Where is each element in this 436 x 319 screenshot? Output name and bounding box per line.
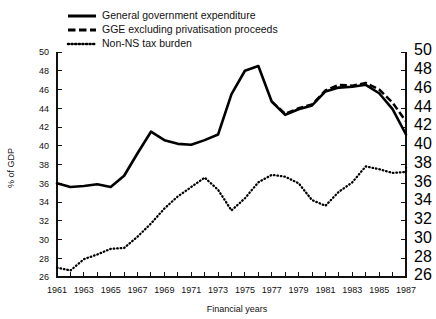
x-tick-label: 1965 (101, 285, 121, 295)
x-tick-label: 1969 (154, 285, 174, 295)
y-axis-tick-labels: 2626282830303232343436363838404042424444… (39, 41, 432, 283)
y-tick-label: 50 (39, 47, 49, 57)
y-tick-label: 46 (39, 85, 49, 95)
y-tick-label: 44 (39, 104, 49, 114)
y-tick-label-right: 50 (414, 41, 432, 58)
y-tick-label-right: 32 (414, 210, 432, 227)
y-tick-label-right: 30 (414, 229, 432, 246)
series-line-dotted (57, 165, 406, 270)
legend-label: Non-NS tax burden (102, 37, 192, 49)
y-tick-label-right: 34 (414, 191, 432, 208)
chart-legend: General government expenditureGGE exclud… (68, 9, 278, 49)
y-tick-label: 48 (39, 66, 49, 76)
y-tick-label-right: 42 (414, 116, 432, 133)
x-tick-label: 1967 (128, 285, 148, 295)
y-tick-label-right: 38 (414, 154, 432, 171)
gge-tax-burden-line-chart: General government expenditureGGE exclud… (0, 0, 436, 319)
y-tick-label-right: 44 (414, 98, 432, 115)
legend-label: GGE excluding privatisation proceeds (102, 23, 278, 35)
legend-label: General government expenditure (102, 9, 256, 21)
y-tick-label: 30 (39, 235, 49, 245)
chart-container: General government expenditureGGE exclud… (0, 0, 436, 319)
y-tick-label-right: 36 (414, 173, 432, 190)
y-tick-label: 38 (39, 160, 49, 170)
x-axis-tick-labels: 1961196319651967196919711973197519771979… (47, 285, 416, 295)
y-tick-label: 26 (39, 272, 49, 282)
x-tick-label: 1979 (289, 285, 309, 295)
x-tick-label: 1981 (315, 285, 335, 295)
y-tick-label-right: 28 (414, 248, 432, 265)
x-tick-label: 1983 (342, 285, 362, 295)
x-tick-label: 1985 (369, 285, 389, 295)
x-axis-title: Financial years (207, 304, 268, 314)
y-tick-label-right: 48 (414, 60, 432, 77)
x-tick-label: 1961 (47, 285, 67, 295)
y-tick-label: 32 (39, 216, 49, 226)
y-tick-label: 34 (39, 197, 49, 207)
y-axis-title: % of GDP (6, 148, 16, 188)
y-tick-label-right: 26 (414, 266, 432, 283)
x-tick-label: 1975 (235, 285, 255, 295)
y-tick-label: 40 (39, 141, 49, 151)
x-tick-label: 1977 (262, 285, 282, 295)
x-tick-label: 1987 (396, 285, 416, 295)
y-tick-label: 42 (39, 122, 49, 132)
y-tick-label: 28 (39, 254, 49, 264)
x-axis-ticks (57, 272, 406, 277)
data-series (57, 66, 406, 270)
y-tick-label-right: 46 (414, 79, 432, 96)
y-tick-label: 36 (39, 179, 49, 189)
y-tick-label-right: 40 (414, 135, 432, 152)
x-tick-label: 1963 (74, 285, 94, 295)
x-tick-label: 1973 (208, 285, 228, 295)
x-tick-label: 1971 (181, 285, 201, 295)
